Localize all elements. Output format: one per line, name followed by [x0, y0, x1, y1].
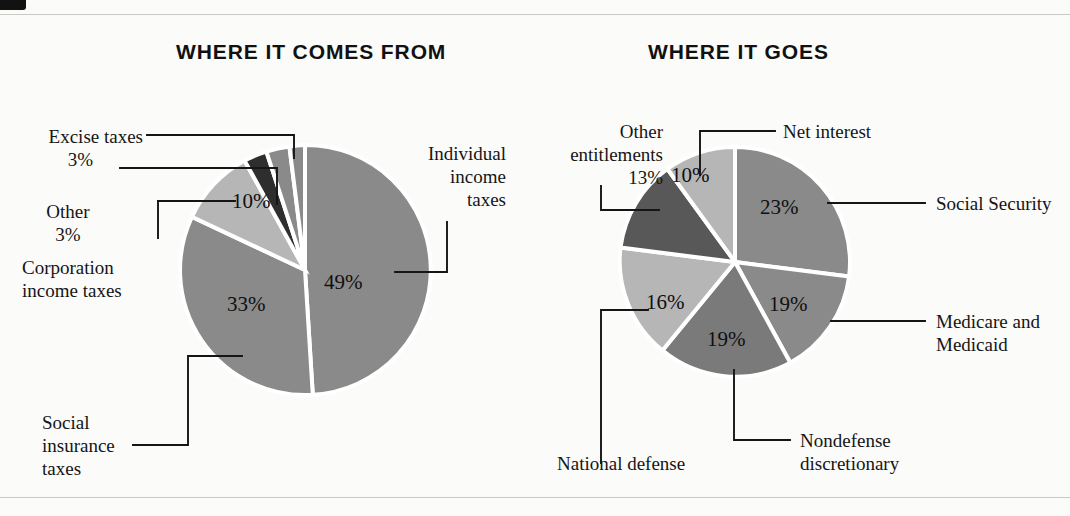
label-nondefense-discretionary: Nondefense discretionary	[800, 429, 940, 475]
label-other: Other	[18, 200, 118, 223]
label-other-entitlements-pct: 13%	[528, 166, 663, 189]
pct-net-interest: 10%	[671, 163, 710, 188]
label-social-insurance-taxes: Social insurance taxes	[42, 411, 172, 480]
pct-nondefense-discretionary: 19%	[707, 327, 746, 352]
label-excise-taxes: Excise taxes	[18, 125, 143, 148]
pct-social-security: 23%	[760, 195, 799, 220]
label-national-defense: National defense	[557, 452, 685, 475]
pct-individual-income-taxes: 49%	[324, 270, 363, 295]
label-medicare-medicaid: Medicare and Medicaid	[936, 310, 1066, 356]
label-excise-taxes-pct: 3%	[18, 148, 143, 171]
pct-national-defense: 16%	[646, 290, 685, 315]
label-individual-income-taxes: Individual income taxes	[388, 142, 506, 211]
pct-corporation-income-taxes: 10%	[232, 189, 271, 214]
leader-nondefense	[734, 370, 790, 440]
label-net-interest: Net interest	[783, 120, 871, 143]
label-corporation-income-taxes: Corporation income taxes	[22, 256, 172, 302]
page-background: WHERE IT COMES FROM WHERE IT GOES	[0, 0, 1070, 516]
leader-national-defense	[601, 310, 648, 463]
label-other-entitlements: Other entitlements	[528, 120, 663, 166]
pct-medicare-medicaid: 19%	[769, 292, 808, 317]
pct-social-insurance-taxes: 33%	[227, 292, 266, 317]
label-social-security: Social Security	[936, 192, 1052, 215]
label-other-pct: 3%	[18, 223, 118, 246]
